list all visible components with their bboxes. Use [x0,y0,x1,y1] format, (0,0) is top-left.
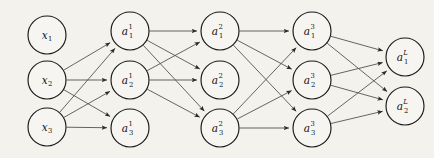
edge-a1_3-to-a2_L [327,43,387,91]
edge-x2-to-a3_1 [64,90,110,117]
node-a3-layer2: a23 [201,109,239,147]
node-a1-layer3: a31 [293,12,331,50]
node-a2-layer3: a32 [293,61,331,99]
edge-a1_1-to-a2_2 [147,40,200,69]
edge-x3-to-a2_1 [64,91,110,117]
edge-a2_1-to-a3_2 [147,89,200,117]
edge-a1_2-to-a2_3 [237,40,291,69]
network-graph-canvas: x1x2x3a11a12a13a21a22a23a31a32a33aL1aL2 [0,0,434,158]
node-a3-layer1: a13 [111,109,149,147]
node-x1: x1 [28,16,66,54]
node-a1-layer1: a11 [111,12,149,50]
node-x2: x2 [28,61,66,99]
edge-a2_1-to-a1_2 [147,42,200,71]
node-a2-output: aL2 [386,87,424,125]
edge-x2-to-a1_1 [64,43,110,70]
edge-a3_3-to-a1_L [328,71,387,116]
neural-network-diagram: x1x2x3a11a12a13a21a22a23a31a32a33aL1aL2 [0,0,434,158]
edge-a3_2-to-a1_3 [233,48,296,114]
node-a3-layer3: a33 [293,109,331,147]
node-a1-output: aL1 [386,38,424,76]
edge-a3_3-to-a2_L [331,111,383,123]
edge-a2_3-to-a2_L [331,85,383,100]
edge-a3_2-to-a2_3 [237,91,291,119]
node-a2-layer2: a22 [201,61,239,99]
edge-a2_3-to-a1_L [331,63,383,76]
node-a2-layer1: a12 [111,61,149,99]
node-a1-layer2: a21 [201,12,239,50]
edge-a1_3-to-a1_L [331,36,383,51]
node-x3: x3 [28,108,66,146]
nodes-group: x1x2x3a11a12a13a21a22a23a31a32a33aL1aL2 [28,12,424,147]
